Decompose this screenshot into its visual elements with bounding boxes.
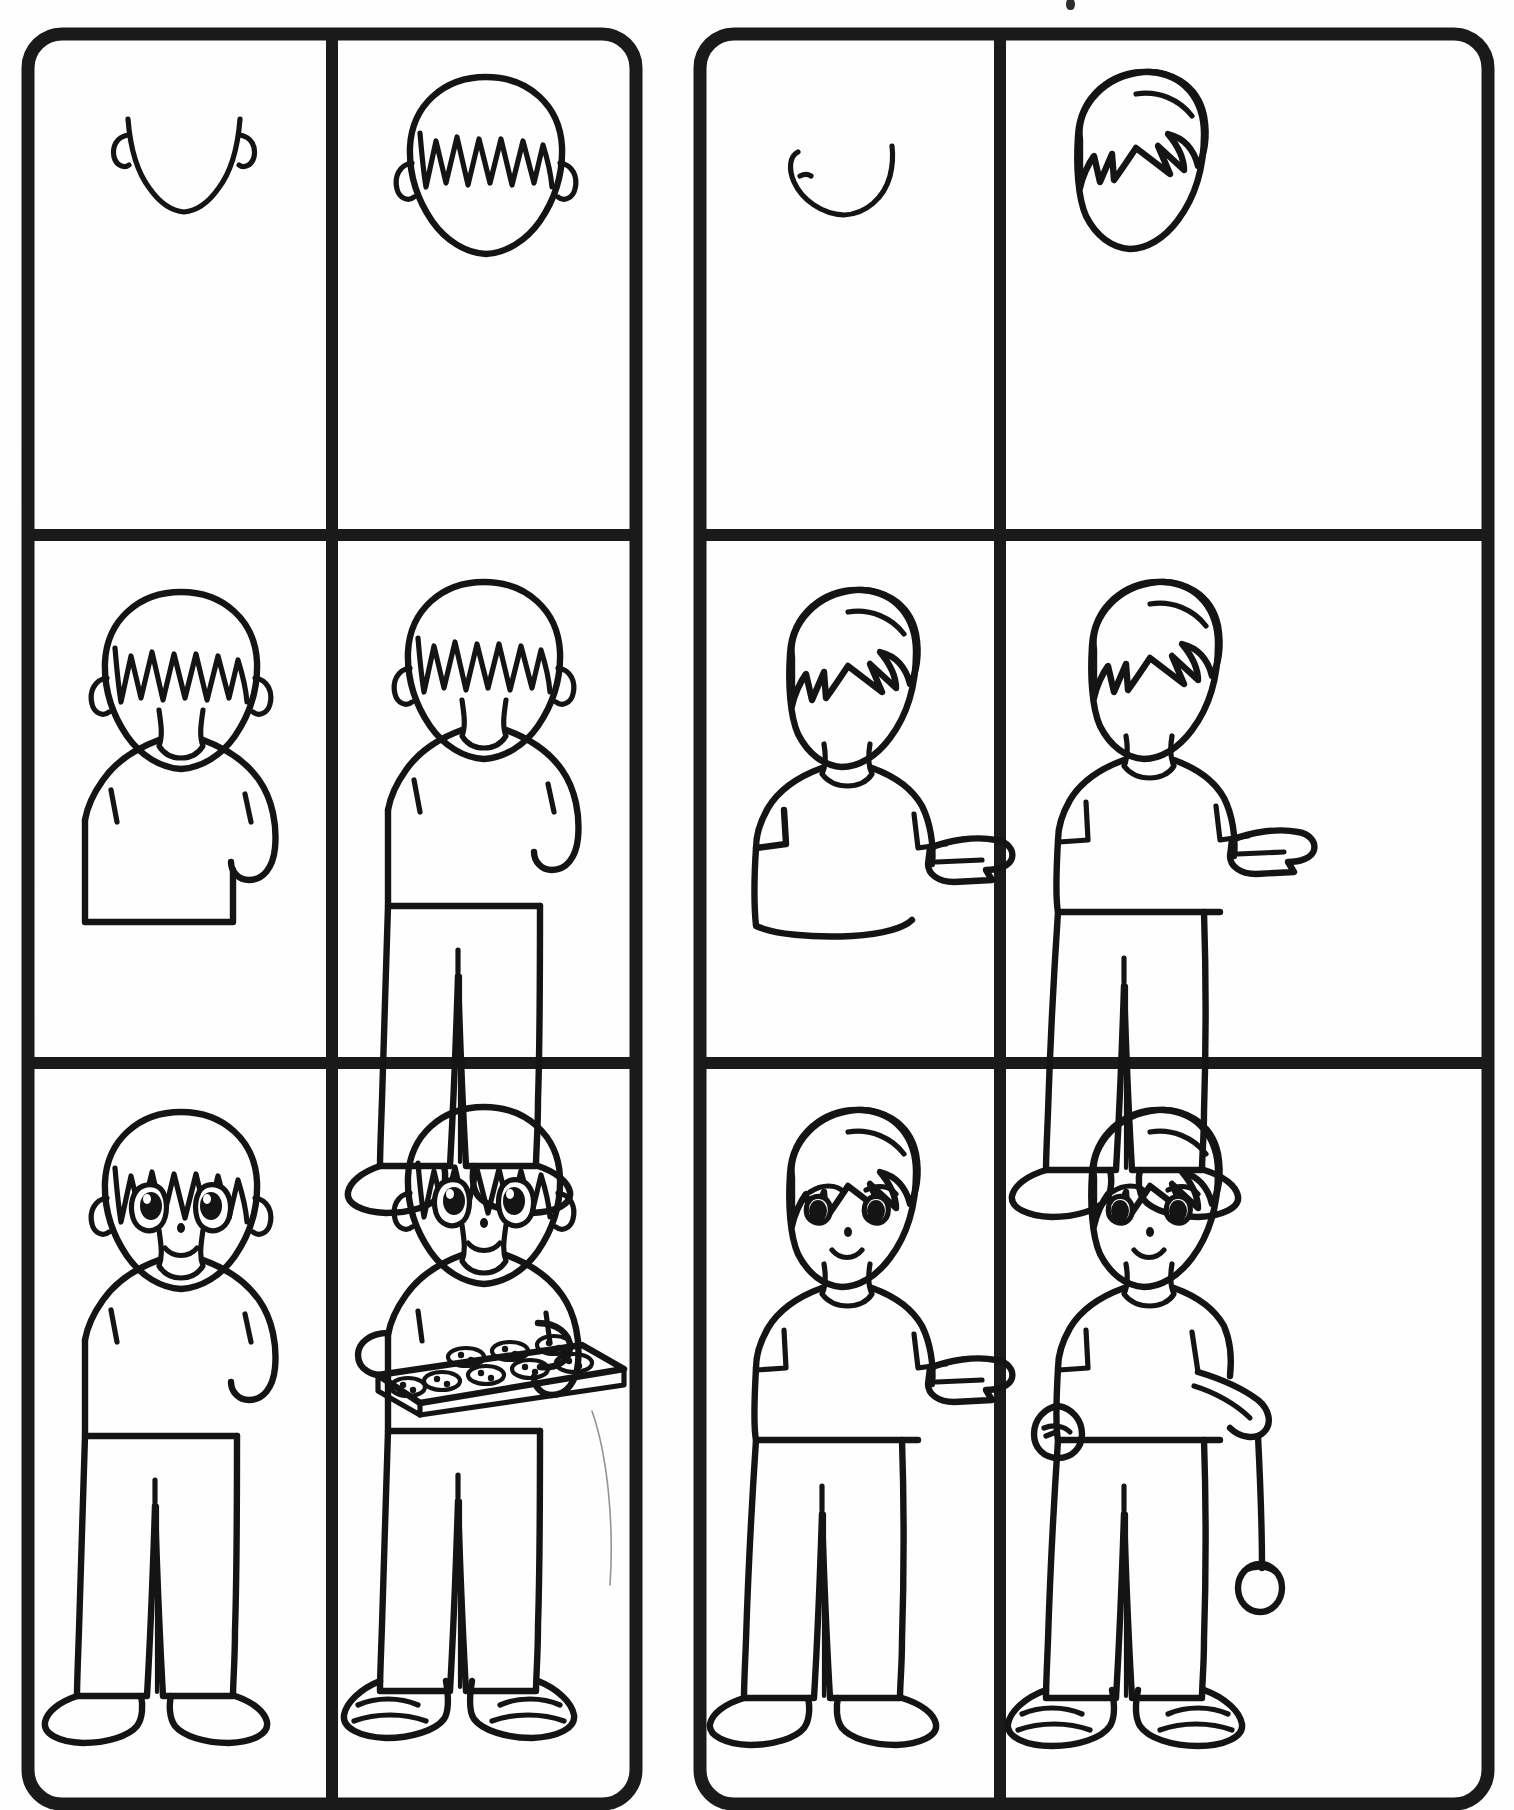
cell-R1-drawing (791, 146, 893, 215)
cell-R5-drawing (710, 1110, 1013, 1745)
cell-L3-drawing (85, 592, 275, 922)
cell-R3-drawing (755, 590, 1013, 937)
cell-L1-drawing (114, 119, 255, 212)
cell-R4-drawing (1012, 582, 1315, 1217)
worksheet-page: .ink{fill:none;stroke:#141414;stroke-lin… (0, 0, 1514, 1810)
ink-speck-icon (1066, 0, 1075, 10)
worksheet-canvas: .ink{fill:none;stroke:#141414;stroke-lin… (0, 0, 1514, 1810)
cell-L6-drawing (344, 1107, 624, 1738)
cell-R2-drawing (1077, 72, 1205, 249)
cell-L4-drawing (348, 582, 579, 1213)
cell-L5-drawing (45, 1112, 276, 1743)
cell-L2-drawing (396, 77, 576, 254)
